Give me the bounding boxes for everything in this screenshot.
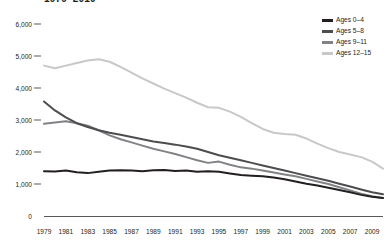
legend-item[interactable]: Ages 0–4	[322, 15, 387, 26]
series-line	[44, 59, 383, 168]
legend-item[interactable]: Ages 12–15	[322, 48, 387, 59]
legend-swatch-icon	[322, 41, 333, 44]
legend-item-label: Ages 9–11	[336, 39, 367, 46]
chart-legend: Ages 0–4Ages 5–8Ages 9–11Ages 12–15	[322, 15, 387, 59]
legend-item-label: Ages 5–8	[336, 28, 364, 35]
legend-swatch-icon	[322, 30, 333, 33]
legend-item-label: Ages 0–4	[336, 17, 364, 24]
legend-swatch-icon	[322, 19, 333, 22]
series-line	[44, 101, 383, 194]
line-chart: 1979–2010 6,0005,0004,0003,0002,0001,000…	[0, 0, 387, 250]
series-line	[44, 170, 383, 198]
legend-item-label: Ages 12–15	[336, 50, 371, 57]
series-line	[44, 121, 383, 198]
legend-swatch-icon	[322, 52, 333, 55]
legend-item[interactable]: Ages 9–11	[322, 37, 387, 48]
legend-item[interactable]: Ages 5–8	[322, 26, 387, 37]
